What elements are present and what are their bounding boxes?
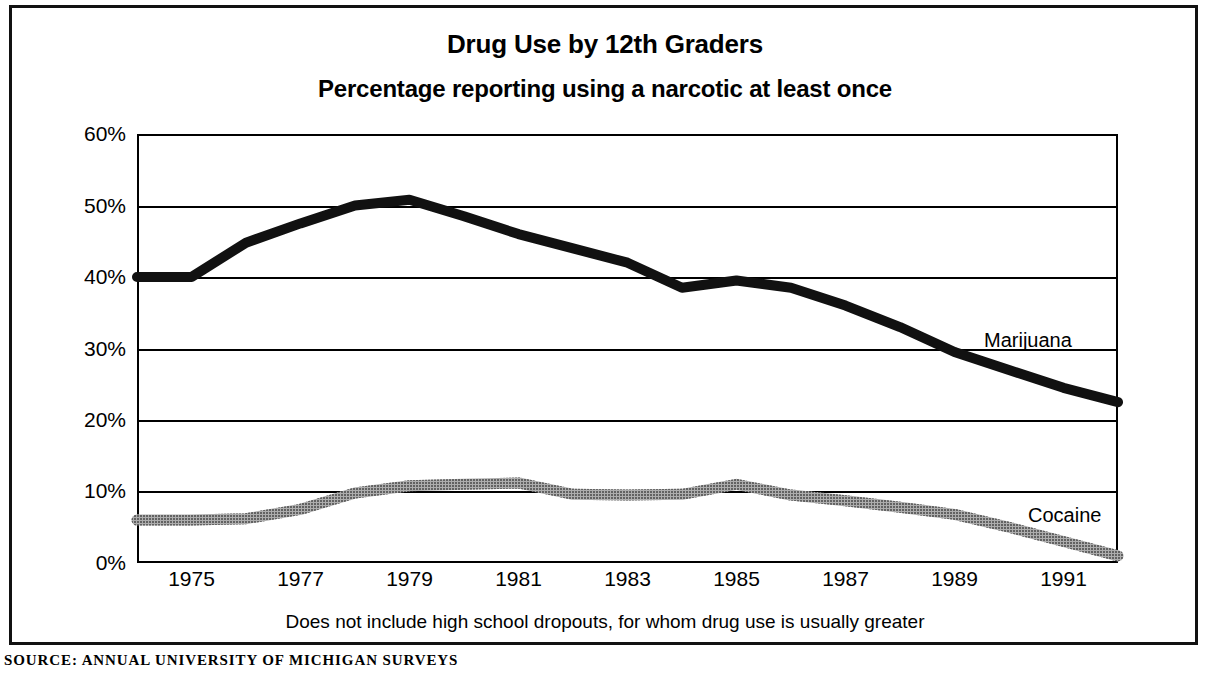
x-tick-1975: 1975 [152,567,232,591]
series-line-cocaine-edge [137,483,1118,556]
y-tick-50: 50% [56,194,126,218]
x-axis-tick-labels: 1975 1977 1979 1981 1983 1985 1987 1989 … [137,567,1118,597]
x-tick-1983: 1983 [588,567,668,591]
series-label-marijuana: Marijuana [984,329,1072,352]
chart-footnote: Does not include high school dropouts, f… [0,611,1210,633]
x-tick-1991: 1991 [1023,567,1103,591]
series-line-marijuana [137,200,1118,402]
chart-figure: Drug Use by 12th Graders Percentage repo… [0,0,1210,677]
series-label-cocaine: Cocaine [1028,504,1101,527]
x-tick-1985: 1985 [696,567,776,591]
y-tick-30: 30% [56,337,126,361]
x-tick-1981: 1981 [479,567,559,591]
series-lines [137,134,1118,563]
chart-source: SOURCE: ANNUAL UNIVERSITY OF MICHIGAN SU… [4,652,458,669]
x-tick-1979: 1979 [370,567,450,591]
chart-subtitle: Percentage reporting using a narcotic at… [0,75,1210,103]
y-tick-60: 60% [56,122,126,146]
chart-title: Drug Use by 12th Graders [0,29,1210,60]
y-tick-0: 0% [56,551,126,575]
x-tick-1977: 1977 [261,567,341,591]
y-tick-40: 40% [56,265,126,289]
y-tick-20: 20% [56,408,126,432]
x-tick-1989: 1989 [914,567,994,591]
plot-area [137,134,1118,563]
y-tick-10: 10% [56,479,126,503]
y-axis-tick-labels: 60% 50% 40% 30% 20% 10% 0% [50,134,126,563]
x-tick-1987: 1987 [805,567,885,591]
